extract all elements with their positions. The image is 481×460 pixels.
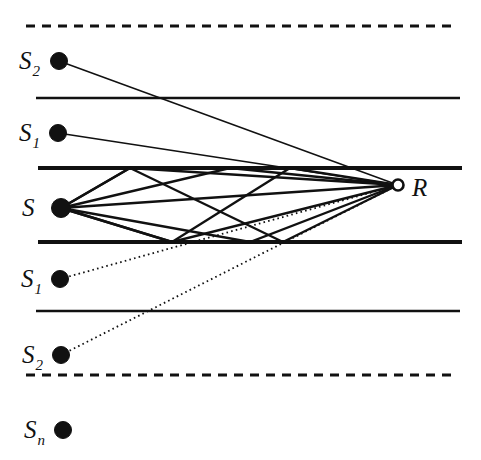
image-ray-down-1 [60,185,398,279]
image-down-2-label-base: S [22,341,35,368]
image-down-n-label: Sn [24,416,45,448]
receiver-marker [393,180,404,191]
node-labels-layer: SRS2S1S1S2Sn [19,47,427,448]
ray-down-1-bounce [61,185,398,242]
image-up-2-label: S2 [19,47,41,79]
source-marker [52,199,71,218]
source-label-base: S [22,194,35,221]
image-down-1-label: S1 [21,265,42,297]
diagram-canvas: SRS2S1S1S2Sn [0,0,481,460]
waveguide-diagram: SRS2S1S1S2Sn [0,0,481,460]
receiver-label-base: R [411,174,427,201]
image-down-n-marker [55,422,72,439]
image-up-1-marker [50,125,67,142]
image-up-2-label-base: S [19,47,32,74]
image-down-2-label-subscript: 2 [36,357,44,373]
image-down-n-label-subscript: n [38,432,46,448]
image-up-2-marker [51,53,68,70]
image-ray-up-1 [58,133,398,185]
image-up-1-label: S1 [19,119,40,151]
receiver-label: R [411,174,427,201]
image-up-2-label-subscript: 2 [33,63,41,79]
image-up-1-label-base: S [19,119,32,146]
image-down-1-marker [52,271,69,288]
source-label: S [22,194,35,221]
image-down-n-label-base: S [24,416,37,443]
image-down-1-label-base: S [21,265,34,292]
image-down-1-label-subscript: 1 [35,281,43,297]
image-down-2-marker [53,347,70,364]
ray-down-shallow [61,185,398,242]
image-down-2-label: S2 [22,341,44,373]
image-up-1-label-subscript: 1 [33,135,41,151]
nodes-layer [50,53,404,439]
